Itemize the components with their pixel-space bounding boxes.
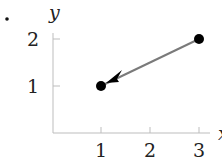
point-1-1 xyxy=(96,81,106,91)
vector-plot: 2 1 1 2 3 y x xyxy=(0,0,222,163)
x-tick-label-3: 3 xyxy=(193,139,205,161)
list-bullet-icon xyxy=(5,17,9,21)
x-tick-label-2: 2 xyxy=(144,139,156,161)
point-3-2 xyxy=(194,34,204,44)
y-tick-label-2: 2 xyxy=(27,28,39,50)
y-axis-label: y xyxy=(48,1,60,23)
y-tick-label-1: 1 xyxy=(27,75,39,97)
x-tick-label-1: 1 xyxy=(95,139,107,161)
x-axis-label: x xyxy=(218,122,222,144)
